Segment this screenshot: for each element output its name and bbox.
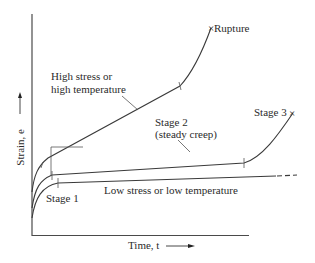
- stage2-pointer: [178, 140, 190, 152]
- high-stress-curve: [32, 28, 211, 192]
- low-stress-label: Low stress or low temperature: [104, 184, 238, 196]
- end-mark-icon: ×: [289, 107, 295, 119]
- x-axis-label: Time, t: [128, 239, 159, 251]
- high-stress-label-line1: High stress or: [51, 70, 112, 82]
- stage2-label-line2: (steady creep): [155, 128, 217, 141]
- stage1-bracket: [51, 147, 83, 176]
- creep-curve-diagram: Strain, e Time, t × Rupture × Stage 3 Hi…: [0, 0, 315, 263]
- low-stress-curve-continuation: [277, 175, 297, 176]
- high-stress-pointer: [122, 96, 138, 110]
- x-axis-arrow-icon: [166, 244, 195, 248]
- y-axis-label: Strain, e: [14, 129, 26, 166]
- stage3-label: Stage 3: [254, 106, 287, 118]
- y-axis-arrow-icon: [18, 92, 22, 114]
- rupture-label: Rupture: [214, 22, 250, 34]
- stage2-label-line1: Stage 2: [155, 116, 188, 128]
- high-stress-label-line2: high temperature: [51, 83, 126, 95]
- stage1-label: Stage 1: [46, 192, 79, 204]
